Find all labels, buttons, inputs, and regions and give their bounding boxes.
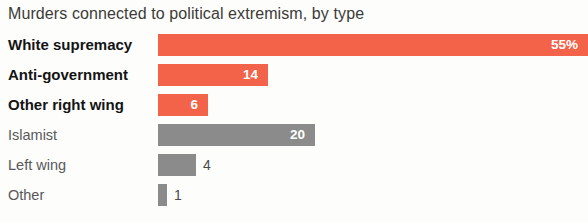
chart-title: Murders connected to political extremism… — [8, 5, 364, 23]
bar-row: Left wing4 — [0, 150, 588, 180]
bar-row: White supremacy55% — [0, 30, 588, 60]
bar-row: Islamist20 — [0, 120, 588, 150]
bar-track: 55% — [158, 34, 588, 56]
bar-value-label: 4 — [203, 154, 211, 176]
bar-track: 4 — [158, 154, 588, 176]
bar — [158, 184, 167, 206]
bar — [158, 154, 196, 176]
bar-category-label: Other right wing — [8, 90, 124, 120]
bar — [158, 34, 588, 56]
bar-value-label: 14 — [228, 64, 258, 86]
bar-category-label: Islamist — [8, 120, 57, 150]
bar-track: 1 — [158, 184, 588, 206]
chart-plot-area: White supremacy55%Anti-government14Other… — [0, 30, 588, 222]
bar-row: Other1 — [0, 180, 588, 210]
bar-value-label: 6 — [168, 94, 198, 116]
bar-category-label: Left wing — [8, 150, 66, 180]
bar-category-label: Anti-government — [8, 60, 128, 90]
bar-category-label: Other — [8, 180, 44, 210]
bar-row: Anti-government14 — [0, 60, 588, 90]
bar-value-label: 55% — [548, 34, 578, 56]
bar-track: 20 — [158, 124, 588, 146]
bar-row: Other right wing6 — [0, 90, 588, 120]
bar-value-label: 1 — [174, 184, 182, 206]
bar-category-label: White supremacy — [8, 30, 132, 60]
bar-chart-figure: Murders connected to political extremism… — [0, 0, 588, 222]
bar-track: 14 — [158, 64, 588, 86]
bar-track: 6 — [158, 94, 588, 116]
bar-value-label: 20 — [275, 124, 305, 146]
